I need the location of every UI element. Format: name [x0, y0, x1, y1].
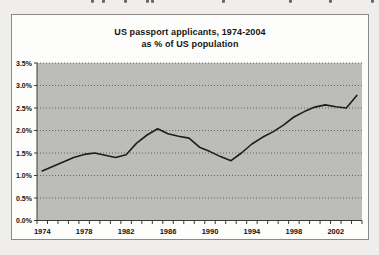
chart-title-line1: US passport applicants, 1974-2004 [12, 26, 368, 38]
y-axis-tick-label: 2.0% [16, 127, 33, 134]
x-axis-tick-label: 1994 [244, 227, 262, 236]
chart-container: 0.0%0.5%1.0%1.5%2.0%2.5%3.0%3.5%19741978… [11, 14, 369, 240]
x-axis-tick-label: 1982 [118, 227, 135, 236]
clipped-text-fragment [91, 0, 94, 3]
x-axis-tick-label: 1978 [76, 227, 93, 236]
x-axis-tick-label: 1998 [286, 227, 303, 236]
x-axis-tick-label: 1986 [160, 227, 177, 236]
clipped-text-fragment [151, 0, 154, 3]
clipped-text-fragment [289, 0, 292, 3]
x-axis-tick-label: 1974 [34, 227, 52, 236]
clipped-text-fragment [102, 0, 105, 3]
chart-title-line2: as % of US population [12, 38, 368, 50]
y-axis-tick-label: 2.5% [16, 105, 33, 112]
plot-area-bg [37, 63, 362, 221]
clipped-text-fragment [329, 0, 332, 3]
clipped-text-fragment [222, 0, 225, 3]
y-axis-tick-label: 1.0% [16, 172, 33, 179]
y-axis-tick-label: 0.5% [16, 195, 33, 202]
y-axis-tick-label: 3.5% [16, 60, 33, 67]
x-axis-tick-label: 1990 [202, 227, 219, 236]
clipped-text-fragments [0, 0, 379, 5]
clipped-text-fragment [146, 0, 149, 3]
chart-title: US passport applicants, 1974-2004 as % o… [12, 26, 368, 50]
clipped-text-fragment [124, 0, 127, 3]
clipped-text-fragment [371, 0, 374, 3]
x-axis-tick-label: 2002 [327, 227, 344, 236]
y-axis-tick-label: 1.5% [16, 150, 33, 157]
y-axis-tick-label: 0.0% [16, 217, 33, 224]
document-page: 0.0%0.5%1.0%1.5%2.0%2.5%3.0%3.5%19741978… [0, 0, 379, 255]
y-axis-tick-label: 3.0% [16, 82, 33, 89]
